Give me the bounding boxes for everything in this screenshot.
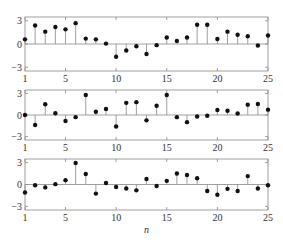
stem-marker — [246, 34, 250, 38]
stem-marker — [256, 43, 260, 47]
x-tick-label: 10 — [111, 73, 121, 84]
stem-marker — [225, 109, 229, 113]
y-tick-label: 3 — [17, 88, 22, 99]
stem-marker — [33, 123, 37, 127]
stem-marker — [33, 183, 37, 187]
stem-marker — [134, 44, 138, 48]
stem-marker — [124, 186, 128, 190]
stem-marker — [23, 113, 27, 117]
y-tick-label: 0 — [17, 179, 22, 190]
stem-marker — [63, 119, 67, 123]
stem-marker — [43, 185, 47, 189]
stem-marker — [185, 120, 189, 124]
stem-marker — [215, 193, 219, 197]
y-tick-label: 3 — [17, 157, 22, 168]
stem-plot-panel-1: 30−31510152025 — [11, 15, 273, 84]
stem-marker — [205, 114, 209, 118]
x-tick-label: 15 — [162, 212, 172, 223]
stem-marker — [246, 174, 250, 178]
stem-marker — [195, 23, 199, 27]
x-tick-label: 5 — [63, 142, 68, 153]
stem-marker — [94, 191, 98, 195]
stem-marker — [235, 111, 239, 115]
stem-marker — [43, 29, 47, 33]
y-tick-label: 0 — [17, 39, 22, 50]
x-tick-label: 10 — [111, 142, 121, 153]
stem-marker — [154, 184, 158, 188]
stem-marker — [175, 171, 179, 175]
x-tick-label: 20 — [212, 73, 222, 84]
stem-marker — [266, 183, 270, 187]
y-tick-label: 3 — [17, 15, 22, 26]
stem-marker — [165, 93, 169, 97]
stem-marker — [94, 110, 98, 114]
stem-marker — [134, 100, 138, 104]
stem-marker — [256, 186, 260, 190]
stem-marker — [114, 185, 118, 189]
stem-marker — [235, 189, 239, 193]
stem-marker — [256, 102, 260, 106]
stem-marker — [154, 43, 158, 47]
x-tick-label: 20 — [212, 142, 222, 153]
x-tick-label: 20 — [212, 212, 222, 223]
stem-marker — [175, 39, 179, 43]
stem-marker — [266, 107, 270, 111]
stem-marker — [53, 25, 57, 29]
x-tick-label: 5 — [63, 212, 68, 223]
stem-marker — [185, 173, 189, 177]
stem-marker — [104, 107, 108, 111]
x-tick-label: 1 — [23, 73, 28, 84]
stem-marker — [195, 114, 199, 118]
stem-marker — [53, 111, 57, 115]
stem-marker — [215, 37, 219, 41]
stem-marker — [165, 35, 169, 39]
x-tick-label: 1 — [23, 212, 28, 223]
stem-marker — [165, 179, 169, 183]
stem-marker — [235, 33, 239, 37]
x-tick-label: 10 — [111, 212, 121, 223]
stem-marker — [134, 188, 138, 192]
stem-marker — [154, 104, 158, 108]
stem-marker — [205, 189, 209, 193]
stem-marker — [124, 48, 128, 52]
stem-marker — [144, 52, 148, 56]
y-tick-label: −3 — [11, 201, 22, 212]
stem-marker — [73, 161, 77, 165]
stem-marker — [104, 181, 108, 185]
stem-marker — [246, 102, 250, 106]
stem-plot-panel-2: 30−31510152025 — [11, 88, 273, 153]
stem-marker — [175, 115, 179, 119]
stem-marker — [94, 37, 98, 41]
stem-marker — [53, 182, 57, 186]
stem-marker — [124, 101, 128, 105]
stem-marker — [63, 178, 67, 182]
x-tick-label: 1 — [23, 142, 28, 153]
x-tick-label: 25 — [263, 212, 273, 223]
stem-marker — [23, 37, 27, 41]
stem-marker — [225, 29, 229, 33]
stem-marker — [114, 124, 118, 128]
stem-marker — [33, 23, 37, 27]
stem-marker — [225, 187, 229, 191]
y-tick-label: −3 — [11, 131, 22, 142]
stem-marker — [195, 176, 199, 180]
stem-marker — [84, 93, 88, 97]
x-tick-label: 5 — [63, 73, 68, 84]
stem-marker — [266, 33, 270, 37]
stem-marker — [205, 23, 209, 27]
stem-marker — [63, 27, 67, 31]
stem-plots-figure: 30−3151015202530−3151015202530−315101520… — [0, 0, 283, 245]
stem-marker — [104, 41, 108, 45]
stem-marker — [84, 36, 88, 40]
stem-marker — [84, 172, 88, 176]
x-tick-label: 25 — [263, 142, 273, 153]
stem-marker — [215, 108, 219, 112]
stem-plot-panel-3: 30−31510152025n — [11, 157, 273, 235]
x-tick-label: 15 — [162, 142, 172, 153]
x-tick-label: 15 — [162, 73, 172, 84]
x-axis-label: n — [144, 224, 149, 235]
stem-marker — [23, 190, 27, 194]
stem-marker — [43, 102, 47, 106]
y-tick-label: −3 — [11, 62, 22, 73]
stem-marker — [144, 177, 148, 181]
